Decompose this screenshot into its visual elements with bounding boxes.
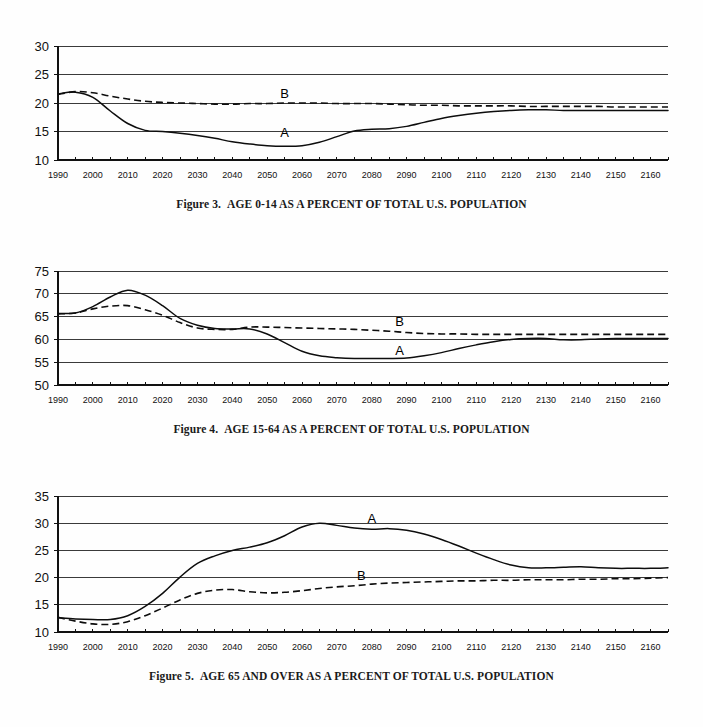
figure-5-caption-number: Figure 5. — [149, 670, 194, 682]
x-tick-label-2010: 2010 — [118, 170, 138, 180]
series-label-a: A — [280, 125, 289, 140]
figure-3-chart: 1015202530199020002010202020302040205020… — [0, 18, 703, 196]
y-tick-label-25: 25 — [35, 67, 49, 82]
x-tick-label-2090: 2090 — [397, 642, 417, 652]
x-tick-label-2110: 2110 — [467, 170, 486, 180]
x-tick-label-2020: 2020 — [153, 642, 173, 652]
x-tick-label-2120: 2120 — [501, 642, 521, 652]
plot-area-Figure 4.: 5055606570751990200020102020203020402050… — [35, 264, 668, 406]
x-tick-label-2160: 2160 — [641, 170, 661, 180]
x-tick-label-2100: 2100 — [431, 170, 451, 180]
series-label-b: B — [395, 314, 404, 329]
x-tick-label-1990: 1990 — [48, 170, 68, 180]
y-tick-label-75: 75 — [35, 264, 49, 279]
x-tick-label-2100: 2100 — [431, 395, 451, 405]
x-tick-label-2150: 2150 — [606, 395, 626, 405]
x-tick-label-2060: 2060 — [292, 642, 312, 652]
x-tick-label-2110: 2110 — [467, 395, 486, 405]
y-tick-label-15: 15 — [35, 597, 49, 612]
x-tick-label-2140: 2140 — [571, 395, 591, 405]
x-tick-label-1990: 1990 — [48, 395, 68, 405]
x-tick-label-2160: 2160 — [641, 642, 661, 652]
x-tick-label-2050: 2050 — [257, 170, 277, 180]
x-tick-label-2050: 2050 — [257, 395, 277, 405]
x-tick-label-2030: 2030 — [187, 642, 207, 652]
x-tick-label-2020: 2020 — [153, 395, 173, 405]
x-tick-label-2060: 2060 — [292, 395, 312, 405]
x-tick-label-2040: 2040 — [222, 642, 242, 652]
series-label-b: B — [280, 86, 289, 101]
y-tick-label-30: 30 — [35, 516, 49, 531]
scan-speck — [4, 520, 13, 522]
series-label-b: B — [357, 568, 366, 583]
plot-area-Figure 3.: 1015202530199020002010202020302040205020… — [35, 39, 668, 181]
x-tick-label-2080: 2080 — [362, 170, 382, 180]
series-curve-a — [58, 92, 668, 146]
y-tick-label-35: 35 — [35, 489, 49, 504]
figure-3-caption: Figure 3.AGE 0-14 AS A PERCENT OF TOTAL … — [0, 198, 703, 210]
series-curve-b — [58, 578, 668, 625]
figure-3-block: 1015202530199020002010202020302040205020… — [0, 18, 703, 210]
x-tick-label-2140: 2140 — [571, 170, 591, 180]
x-tick-label-2000: 2000 — [83, 642, 103, 652]
x-tick-label-2100: 2100 — [431, 642, 451, 652]
x-tick-label-2120: 2120 — [501, 170, 521, 180]
x-tick-label-2080: 2080 — [362, 395, 382, 405]
x-tick-label-2090: 2090 — [397, 395, 417, 405]
x-tick-label-2140: 2140 — [571, 642, 591, 652]
figure-4-caption-text: AGE 15-64 AS A PERCENT OF TOTAL U.S. POP… — [224, 423, 529, 435]
x-tick-label-2060: 2060 — [292, 170, 312, 180]
y-tick-label-65: 65 — [35, 309, 49, 324]
x-tick-label-2030: 2030 — [187, 170, 207, 180]
figure-5-caption: Figure 5.AGE 65 AND OVER AS A PERCENT OF… — [0, 670, 703, 682]
figure-4-block: 5055606570751990200020102020203020402050… — [0, 243, 703, 435]
x-tick-label-2070: 2070 — [327, 642, 347, 652]
x-tick-label-2130: 2130 — [536, 395, 556, 405]
x-tick-label-2070: 2070 — [327, 170, 347, 180]
y-tick-label-20: 20 — [35, 96, 49, 111]
x-tick-label-2120: 2120 — [501, 395, 521, 405]
series-label-a: A — [395, 343, 404, 358]
x-tick-label-2150: 2150 — [606, 170, 626, 180]
x-tick-label-1990: 1990 — [48, 642, 68, 652]
y-tick-label-15: 15 — [35, 124, 49, 139]
y-tick-label-10: 10 — [35, 625, 49, 640]
x-tick-label-2010: 2010 — [118, 642, 138, 652]
x-tick-label-2110: 2110 — [467, 642, 486, 652]
x-tick-label-2150: 2150 — [606, 642, 626, 652]
series-curve-a — [58, 290, 668, 358]
y-tick-label-55: 55 — [35, 355, 49, 370]
x-tick-label-2040: 2040 — [222, 395, 242, 405]
plot-area-Figure 5.: 1015202530351990200020102020203020402050… — [35, 489, 668, 653]
y-tick-label-60: 60 — [35, 332, 49, 347]
figure-4-caption-number: Figure 4. — [173, 423, 218, 435]
series-curve-b — [58, 92, 668, 107]
x-tick-label-2030: 2030 — [187, 395, 207, 405]
figure-4-caption: Figure 4.AGE 15-64 AS A PERCENT OF TOTAL… — [0, 423, 703, 435]
x-tick-label-2000: 2000 — [83, 170, 103, 180]
y-tick-label-70: 70 — [35, 286, 49, 301]
x-tick-label-2160: 2160 — [641, 395, 661, 405]
figure-4-chart: 5055606570751990200020102020203020402050… — [0, 243, 703, 421]
series-label-a: A — [367, 511, 376, 526]
x-tick-label-2000: 2000 — [83, 395, 103, 405]
figure-page: 1015202530199020002010202020302040205020… — [0, 0, 703, 727]
figure-5-chart: 1015202530351990200020102020203020402050… — [0, 468, 703, 668]
y-tick-label-20: 20 — [35, 570, 49, 585]
y-tick-label-50: 50 — [35, 378, 49, 393]
x-tick-label-2010: 2010 — [118, 395, 138, 405]
x-tick-label-2130: 2130 — [536, 170, 556, 180]
scan-speck — [124, 464, 128, 467]
x-tick-label-2130: 2130 — [536, 642, 556, 652]
x-tick-label-2020: 2020 — [153, 170, 173, 180]
figure-5-caption-text: AGE 65 AND OVER AS A PERCENT OF TOTAL U.… — [200, 670, 554, 682]
y-tick-label-25: 25 — [35, 543, 49, 558]
figure-5-block: 1015202530351990200020102020203020402050… — [0, 468, 703, 682]
y-tick-label-10: 10 — [35, 153, 49, 168]
x-tick-label-2040: 2040 — [222, 170, 242, 180]
series-curve-b — [58, 305, 668, 334]
x-tick-label-2070: 2070 — [327, 395, 347, 405]
figure-3-caption-number: Figure 3. — [176, 198, 221, 210]
x-tick-label-2080: 2080 — [362, 642, 382, 652]
scan-speck — [637, 292, 641, 296]
